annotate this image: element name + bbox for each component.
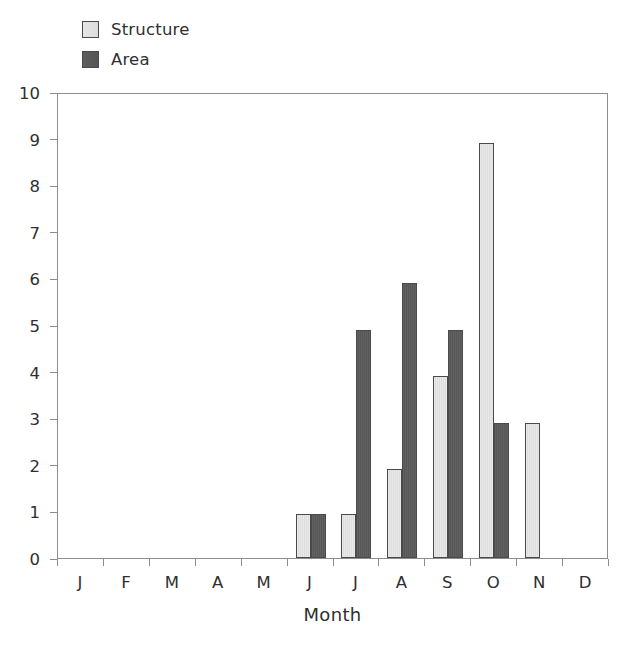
y-axis-tick-label: 1 — [30, 503, 41, 522]
x-axis-tick-mark — [195, 559, 196, 566]
bar-area-a-7 — [402, 283, 417, 558]
y-axis-tick-mark — [50, 279, 57, 280]
y-axis-tick-mark — [50, 232, 57, 233]
x-axis-tick-mark — [378, 559, 379, 566]
y-axis-tick-mark — [50, 372, 57, 373]
plot-area — [57, 93, 608, 559]
y-axis-tick-mark — [50, 326, 57, 327]
bar-area-s-8 — [448, 330, 463, 558]
x-axis-tick-label: F — [121, 573, 131, 592]
x-axis-tick-mark — [287, 559, 288, 566]
bars-layer — [58, 94, 607, 558]
legend-label-structure: Structure — [111, 20, 190, 39]
legend-swatch-area-icon — [82, 51, 99, 68]
y-axis-tick-mark — [50, 465, 57, 466]
legend-item-area: Area — [82, 44, 302, 74]
legend-item-structure: Structure — [82, 14, 302, 44]
x-axis-tick-label: N — [533, 573, 545, 592]
bar-structure-j-6 — [341, 514, 356, 558]
bar-area-o-9 — [494, 423, 509, 558]
y-axis-tick-mark — [50, 512, 57, 513]
x-axis-tick-mark — [562, 559, 563, 566]
y-axis-tick-label: 2 — [30, 456, 41, 475]
legend-label-area: Area — [111, 50, 150, 69]
x-axis-tick-mark — [470, 559, 471, 566]
x-axis-tick-label: J — [307, 573, 312, 592]
y-axis-tick-label: 6 — [30, 270, 41, 289]
y-axis-tick-label: 10 — [19, 84, 40, 103]
x-axis-tick-mark — [333, 559, 334, 566]
bar-structure-s-8 — [433, 376, 448, 558]
bar-structure-j-5 — [296, 514, 311, 558]
x-axis-tick-mark — [516, 559, 517, 566]
y-axis-tick-mark — [50, 419, 57, 420]
x-axis-tick-label: A — [396, 573, 407, 592]
x-axis-tick-label: A — [212, 573, 223, 592]
y-axis-tick-label: 3 — [30, 410, 41, 429]
y-axis: 012345678910 — [0, 93, 57, 559]
x-axis-tick-label: M — [165, 573, 179, 592]
x-axis-tick-mark — [241, 559, 242, 566]
y-axis-tick-mark — [50, 93, 57, 94]
x-axis-tick-label: S — [442, 573, 452, 592]
x-axis-tick-label: J — [78, 573, 83, 592]
x-axis-tick-mark — [608, 559, 609, 566]
x-axis-tick-label: J — [353, 573, 358, 592]
x-axis-tick-mark — [149, 559, 150, 566]
x-axis-tick-mark — [424, 559, 425, 566]
x-axis-tick-mark — [57, 559, 58, 566]
y-axis-tick-mark — [50, 139, 57, 140]
x-axis-tick-label: D — [579, 573, 592, 592]
x-axis-tick-mark — [103, 559, 104, 566]
y-axis-tick-label: 9 — [30, 130, 41, 149]
bar-structure-o-9 — [479, 143, 494, 558]
bar-structure-a-7 — [387, 469, 402, 558]
y-axis-tick-mark — [50, 186, 57, 187]
x-axis-tick-label: O — [487, 573, 500, 592]
bar-area-j-6 — [356, 330, 371, 558]
y-axis-tick-label: 8 — [30, 177, 41, 196]
bar-structure-n-10 — [525, 423, 540, 558]
x-axis-tick-label: M — [257, 573, 271, 592]
y-axis-tick-label: 7 — [30, 223, 41, 242]
y-axis-tick-label: 0 — [30, 550, 41, 569]
legend-swatch-structure-icon — [82, 21, 99, 38]
chart-legend: Structure Area — [82, 14, 302, 74]
y-axis-tick-mark — [50, 559, 57, 560]
bar-chart: Structure Area 012345678910 JFMAMJJASOND… — [0, 0, 630, 650]
bar-area-j-5 — [311, 514, 326, 558]
x-axis: JFMAMJJASOND — [57, 559, 608, 609]
x-axis-title: Month — [57, 604, 608, 625]
y-axis-tick-label: 4 — [30, 363, 41, 382]
y-axis-tick-label: 5 — [30, 317, 41, 336]
